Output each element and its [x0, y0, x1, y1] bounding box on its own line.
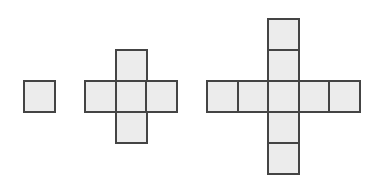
square-tile: [328, 80, 361, 113]
figure-3: [0, 0, 374, 182]
square-tile: [298, 80, 331, 113]
square-tile: [267, 18, 300, 51]
square-tile: [267, 142, 300, 175]
square-tile: [267, 111, 300, 144]
square-tile: [267, 49, 300, 82]
square-tile: [237, 80, 270, 113]
square-tile: [267, 80, 300, 113]
square-tile: [206, 80, 239, 113]
